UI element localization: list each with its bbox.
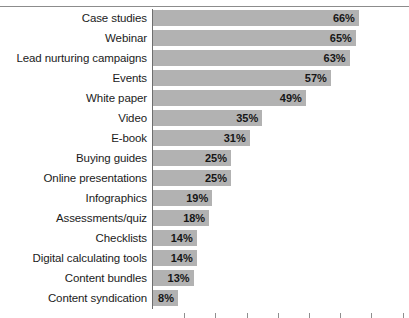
bar: 35% <box>153 110 262 126</box>
category-label: Buying guides <box>0 150 147 166</box>
bar-row: Events57% <box>0 70 409 86</box>
bar-value-label: 25% <box>205 170 227 186</box>
axis-tick <box>403 313 404 318</box>
axis-tick <box>340 313 341 318</box>
axis-tick <box>309 313 310 318</box>
category-label: Assessments/quiz <box>0 210 147 226</box>
bar-row: Infographics19% <box>0 190 409 206</box>
category-label: Lead nurturing campaigns <box>0 50 147 66</box>
bar: 63% <box>153 50 350 66</box>
bar-value-label: 31% <box>224 130 246 146</box>
bar-chart-figure: Case studies66%Webinar65%Lead nurturing … <box>0 0 409 318</box>
bar: 14% <box>153 230 197 246</box>
bar-value-label: 14% <box>171 230 193 246</box>
bar: 65% <box>153 30 356 46</box>
bar-row: Case studies66% <box>0 10 409 26</box>
bar-value-label: 25% <box>205 150 227 166</box>
bar: 25% <box>153 170 231 186</box>
top-divider-rule <box>0 6 409 7</box>
category-label: Content bundles <box>0 270 147 286</box>
bar-value-label: 66% <box>333 10 355 26</box>
bar-row: Lead nurturing campaigns63% <box>0 50 409 66</box>
bar-value-label: 19% <box>186 190 208 206</box>
category-label: White paper <box>0 90 147 106</box>
bar-value-label: 8% <box>158 290 174 306</box>
axis-tick <box>184 313 185 318</box>
bar: 14% <box>153 250 197 266</box>
axis-tick <box>278 313 279 318</box>
bar-row: White paper49% <box>0 90 409 106</box>
bar-row: Assessments/quiz18% <box>0 210 409 226</box>
bar-row: Webinar65% <box>0 30 409 46</box>
bar-row: Video35% <box>0 110 409 126</box>
category-label: Content syndication <box>0 290 147 306</box>
bar: 31% <box>153 130 250 146</box>
category-label: E-book <box>0 130 147 146</box>
bar-fill <box>153 10 359 26</box>
bar-value-label: 49% <box>280 90 302 106</box>
bar-fill <box>153 30 356 46</box>
bar-row: Content bundles13% <box>0 270 409 286</box>
bar-value-label: 13% <box>168 270 190 286</box>
bar-row: Checklists14% <box>0 230 409 246</box>
bar: 25% <box>153 150 231 166</box>
bar: 49% <box>153 90 306 106</box>
category-label: Checklists <box>0 230 147 246</box>
category-label: Online presentations <box>0 170 147 186</box>
category-label: Case studies <box>0 10 147 26</box>
bar: 13% <box>153 270 194 286</box>
bar-row: Buying guides25% <box>0 150 409 166</box>
bar: 18% <box>153 210 209 226</box>
category-label: Digital calculating tools <box>0 250 147 266</box>
bar: 66% <box>153 10 359 26</box>
axis-tick <box>371 313 372 318</box>
category-label: Infographics <box>0 190 147 206</box>
bar: 19% <box>153 190 212 206</box>
bar-row: Content syndication8% <box>0 290 409 306</box>
bar-row: Digital calculating tools14% <box>0 250 409 266</box>
bar-row: E-book31% <box>0 130 409 146</box>
plot-area: Case studies66%Webinar65%Lead nurturing … <box>0 9 409 314</box>
category-label: Video <box>0 110 147 126</box>
bar-value-label: 65% <box>330 30 352 46</box>
bar-value-label: 35% <box>236 110 258 126</box>
axis-tick <box>215 313 216 318</box>
bar-value-label: 63% <box>324 50 346 66</box>
bar-value-label: 14% <box>171 250 193 266</box>
axis-tick <box>247 313 248 318</box>
bar-row: Online presentations25% <box>0 170 409 186</box>
bar-fill <box>153 50 350 66</box>
category-label: Events <box>0 70 147 86</box>
bar: 57% <box>153 70 331 86</box>
bar-value-label: 57% <box>305 70 327 86</box>
value-axis-ticks <box>0 310 409 318</box>
bar-value-label: 18% <box>183 210 205 226</box>
bar: 8% <box>153 290 178 306</box>
category-label: Webinar <box>0 30 147 46</box>
